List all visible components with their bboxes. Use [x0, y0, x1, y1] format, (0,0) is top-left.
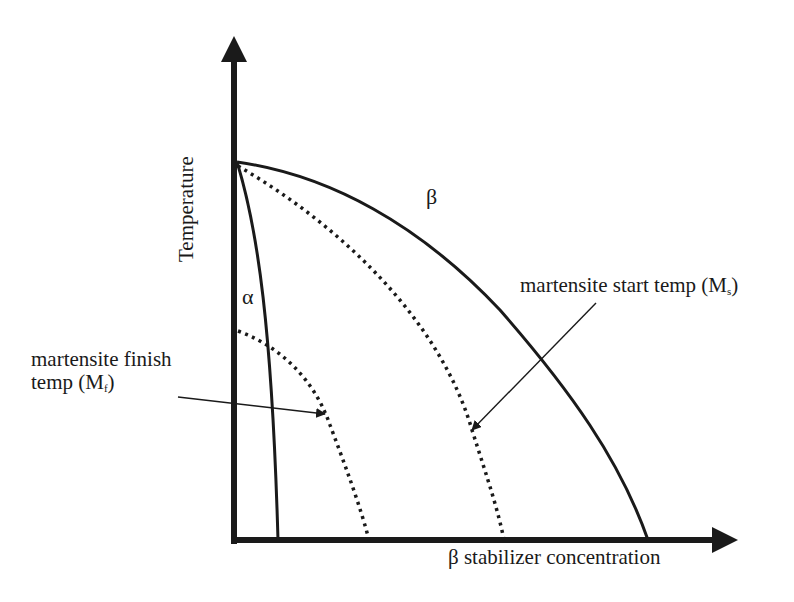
- mf-leader-arrow: [178, 397, 325, 414]
- mf-label-line1: martensite finish: [31, 348, 172, 370]
- x-axis-arrowhead-icon: [712, 527, 738, 553]
- mf-label-close: ): [108, 370, 115, 394]
- ms-leader-arrow: [472, 303, 596, 430]
- x-axis-label: β stabilizer concentration: [448, 546, 660, 568]
- y-axis-arrowhead-icon: [221, 36, 247, 62]
- y-axis-label: Temperature: [174, 156, 199, 262]
- alpha-boundary-curve: [237, 162, 278, 540]
- mf-label-line2: temp (Mf): [31, 371, 115, 399]
- beta-region-label: β: [426, 186, 437, 208]
- ms-label-text: martensite start temp (M: [520, 273, 727, 297]
- mf-label-text: temp (M: [31, 370, 104, 394]
- beta-transus-curve: [237, 162, 648, 540]
- alpha-region-label: α: [242, 286, 254, 308]
- ms-label: martensite start temp (Ms): [520, 274, 738, 302]
- ms-label-close: ): [731, 273, 738, 297]
- martensite-finish-curve: [238, 331, 369, 540]
